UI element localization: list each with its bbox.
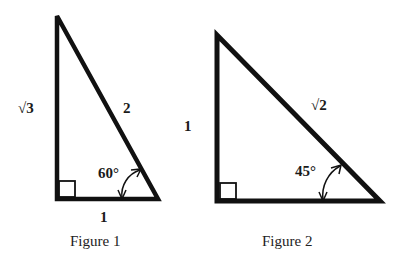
label-hypotenuse-sqrt2: √2 <box>311 97 327 113</box>
diagram-stage: √3 2 60° 1 Figure 1 1 √2 45° Figure 2 <box>0 0 403 267</box>
label-hypotenuse-2: 2 <box>123 100 131 116</box>
label-side-sqrt3: √3 <box>18 100 34 116</box>
figure-2: 1 √2 45° Figure 2 <box>184 35 380 249</box>
right-angle-marker-1 <box>59 181 75 197</box>
label-angle-45: 45° <box>295 163 316 179</box>
figure-1: √3 2 60° 1 Figure 1 <box>18 16 158 249</box>
label-side-1: 1 <box>184 118 192 134</box>
label-angle-60: 60° <box>98 165 119 181</box>
label-base-1: 1 <box>100 209 108 225</box>
right-angle-marker-2 <box>220 183 236 199</box>
triangles-svg: √3 2 60° 1 Figure 1 1 √2 45° Figure 2 <box>0 0 403 267</box>
caption-figure-2: Figure 2 <box>262 233 312 249</box>
caption-figure-1: Figure 1 <box>70 233 120 249</box>
